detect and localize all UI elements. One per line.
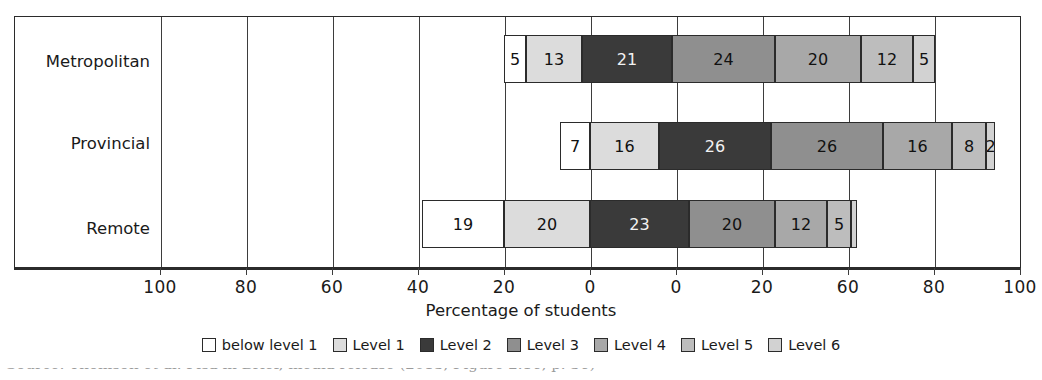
x-axis-tick bbox=[418, 268, 419, 275]
x-axis-tick-label: 80 bbox=[904, 277, 964, 297]
x-axis-tick bbox=[332, 268, 333, 275]
bar-segment bbox=[851, 200, 857, 248]
x-axis-tick-label: 100 bbox=[990, 277, 1042, 297]
x-axis-tick bbox=[590, 268, 591, 275]
x-axis-tick-label: 0 bbox=[560, 277, 620, 297]
x-axis-tick bbox=[676, 268, 677, 275]
bar-segment: 20 bbox=[689, 200, 775, 248]
x-axis-tick-label: 60 bbox=[818, 277, 878, 297]
x-axis-tick-label: 40 bbox=[388, 277, 448, 297]
source-caption-text: Source: Thomson et al. Pisa in Brief, me… bbox=[6, 368, 595, 373]
legend-label: Level 3 bbox=[527, 337, 579, 353]
legend-item[interactable]: Level 3 bbox=[507, 337, 579, 353]
bar-segment: 2 bbox=[986, 122, 995, 170]
legend-label: Level 5 bbox=[701, 337, 753, 353]
bar-segment: 16 bbox=[590, 122, 659, 170]
x-axis-line bbox=[14, 268, 1021, 270]
chart-container: MetropolitanProvincialRemote 51321242012… bbox=[0, 0, 1042, 380]
legend-label: Level 2 bbox=[440, 337, 492, 353]
bar-segment: 24 bbox=[672, 35, 775, 83]
bar-segment: 19 bbox=[422, 200, 504, 248]
legend-swatch bbox=[333, 338, 347, 352]
legend-swatch bbox=[420, 338, 434, 352]
x-axis-tick bbox=[504, 268, 505, 275]
legend: below level 1Level 1Level 2Level 3Level … bbox=[0, 334, 1042, 356]
legend-item[interactable]: Level 1 bbox=[333, 337, 405, 353]
bar-segment: 13 bbox=[526, 35, 582, 83]
legend-label: Level 1 bbox=[353, 337, 405, 353]
x-axis-title: Percentage of students bbox=[0, 301, 1042, 320]
x-axis-tick bbox=[762, 268, 763, 275]
x-axis-tick-label: 20 bbox=[474, 277, 534, 297]
legend-item[interactable]: Level 5 bbox=[681, 337, 753, 353]
bar-segment: 26 bbox=[659, 122, 771, 170]
legend-swatch bbox=[768, 338, 782, 352]
bar-segment: 21 bbox=[582, 35, 672, 83]
legend-swatch bbox=[594, 338, 608, 352]
x-axis-tick-label: 60 bbox=[302, 277, 362, 297]
bar-row: 513212420125 bbox=[0, 35, 1042, 83]
bar-row: 19202320125 bbox=[0, 200, 1042, 248]
legend-item[interactable]: Level 2 bbox=[420, 337, 492, 353]
x-axis-tick bbox=[934, 268, 935, 275]
bar-segment: 26 bbox=[771, 122, 883, 170]
source-caption: Source: Thomson et al. Pisa in Brief, me… bbox=[0, 368, 1042, 380]
x-axis-tick-label: 20 bbox=[732, 277, 792, 297]
legend-label: Level 6 bbox=[788, 337, 840, 353]
bar-segment: 8 bbox=[952, 122, 986, 170]
legend-item[interactable]: Level 6 bbox=[768, 337, 840, 353]
bar-segment: 5 bbox=[913, 35, 935, 83]
bar-segment: 20 bbox=[504, 200, 590, 248]
bar-segment: 20 bbox=[775, 35, 861, 83]
x-axis-tick-label: 80 bbox=[216, 277, 276, 297]
x-axis-tick-label: 100 bbox=[130, 277, 190, 297]
x-axis-tick bbox=[160, 268, 161, 275]
bar-segment: 5 bbox=[504, 35, 526, 83]
legend-item[interactable]: Level 4 bbox=[594, 337, 666, 353]
x-axis-tick-label: 0 bbox=[646, 277, 706, 297]
bar-segment: 7 bbox=[560, 122, 590, 170]
bar-row: 71626261682 bbox=[0, 122, 1042, 170]
bar-segment: 12 bbox=[861, 35, 913, 83]
x-axis-tick bbox=[246, 268, 247, 275]
legend-swatch bbox=[681, 338, 695, 352]
legend-swatch bbox=[202, 338, 216, 352]
legend-label: below level 1 bbox=[222, 337, 318, 353]
bar-segment: 12 bbox=[775, 200, 827, 248]
x-axis-tick bbox=[1020, 268, 1021, 275]
x-axis-tick bbox=[848, 268, 849, 275]
legend-swatch bbox=[507, 338, 521, 352]
bar-segment: 16 bbox=[883, 122, 952, 170]
legend-label: Level 4 bbox=[614, 337, 666, 353]
bar-segment: 5 bbox=[827, 200, 851, 248]
bar-segment: 23 bbox=[590, 200, 689, 248]
legend-item[interactable]: below level 1 bbox=[202, 337, 318, 353]
